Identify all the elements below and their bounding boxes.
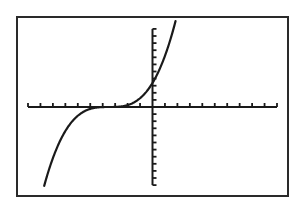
cubic-curve [44,21,175,186]
axes [28,29,277,185]
cubic-function-plot [0,0,303,200]
